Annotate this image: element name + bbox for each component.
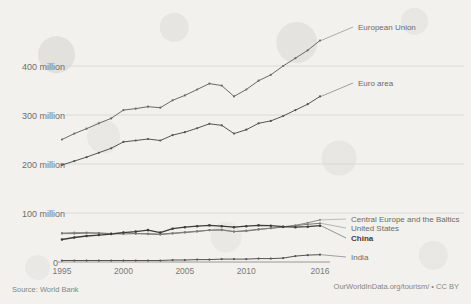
- series-leader-lines: [321, 27, 353, 257]
- series-marker: [220, 225, 223, 228]
- series-label: China: [351, 234, 374, 243]
- series-label: United States: [351, 224, 399, 233]
- gridlines: [62, 66, 464, 213]
- series-marker: [270, 120, 272, 122]
- series-marker: [307, 49, 309, 51]
- series-line: [62, 223, 320, 234]
- series-lines: [62, 41, 320, 261]
- series-marker: [110, 147, 112, 149]
- series-marker: [306, 225, 309, 228]
- series-marker: [159, 107, 161, 109]
- series-label: European Union: [358, 23, 416, 32]
- series-marker: [270, 257, 272, 259]
- series-marker: [110, 117, 112, 119]
- series-marker: [159, 259, 161, 261]
- series-marker: [319, 39, 321, 41]
- series-marker: [135, 259, 137, 261]
- series-marker: [147, 229, 150, 232]
- series-markers: [61, 39, 322, 261]
- series-marker: [85, 259, 87, 261]
- series-marker: [245, 129, 247, 131]
- x-tick-label: 2005: [175, 266, 194, 276]
- y-tick-label: 200 million: [22, 160, 65, 170]
- series-marker: [85, 235, 88, 238]
- series-marker: [196, 258, 198, 260]
- series-marker: [196, 231, 198, 233]
- series-marker: [122, 231, 125, 234]
- series-marker: [98, 122, 100, 124]
- x-tick-label: 2010: [237, 266, 256, 276]
- series-marker: [257, 257, 259, 259]
- series-marker: [257, 228, 259, 230]
- series-marker: [282, 65, 284, 67]
- chart-svg: 400 million300 million200 million100 mil…: [0, 0, 471, 304]
- series-line: [62, 255, 320, 261]
- series-marker: [73, 232, 75, 234]
- series-marker: [319, 95, 321, 97]
- series-marker: [122, 141, 124, 143]
- series-marker: [61, 238, 64, 241]
- series-marker: [171, 227, 174, 230]
- series-marker: [319, 254, 321, 256]
- series-marker: [221, 229, 223, 231]
- series-marker: [85, 128, 87, 130]
- y-tick-label: 100 million: [22, 209, 65, 219]
- series-marker: [61, 259, 63, 261]
- series-marker: [208, 224, 211, 227]
- series-marker: [208, 229, 210, 231]
- series-marker: [282, 257, 284, 259]
- x-tick-labels: 19952000200520102016: [53, 266, 330, 276]
- series-marker: [294, 226, 297, 229]
- series-marker: [294, 109, 296, 111]
- series-marker: [171, 134, 173, 136]
- series-marker: [221, 85, 223, 87]
- series-marker: [98, 152, 100, 154]
- series-marker: [159, 231, 162, 234]
- series-marker: [208, 123, 210, 125]
- series-marker: [233, 95, 235, 97]
- series-marker: [171, 232, 173, 234]
- series-marker: [134, 230, 137, 233]
- series-marker: [245, 225, 248, 228]
- y-tick-label: 400 million: [22, 62, 65, 72]
- series-marker: [245, 230, 247, 232]
- series-labels: European UnionEuro areaCentral Europe an…: [351, 23, 460, 262]
- series-marker: [270, 224, 273, 227]
- series-marker: [98, 259, 100, 261]
- series-line: [62, 41, 320, 140]
- series-marker: [294, 57, 296, 59]
- credit-note: OurWorldInData.org/tourism/ • CC BY: [334, 282, 459, 291]
- series-marker: [245, 258, 247, 260]
- series-marker: [319, 224, 322, 227]
- series-marker: [282, 225, 285, 228]
- series-marker: [208, 83, 210, 85]
- series-line: [62, 96, 320, 165]
- series-marker: [184, 94, 186, 96]
- series-marker: [147, 259, 149, 261]
- series-label: Central Europe and the Baltics: [351, 215, 460, 224]
- series-label: India: [351, 253, 369, 262]
- series-marker: [184, 226, 187, 229]
- series-marker: [233, 226, 236, 229]
- series-marker: [61, 138, 63, 140]
- series-marker: [110, 233, 113, 236]
- series-marker: [135, 108, 137, 110]
- series-marker: [61, 232, 63, 234]
- series-marker: [319, 222, 321, 224]
- series-marker: [196, 225, 199, 228]
- series-marker: [294, 255, 296, 257]
- series-marker: [98, 234, 101, 237]
- series-marker: [221, 124, 223, 126]
- x-tick-label: 2016: [311, 266, 330, 276]
- series-marker: [184, 259, 186, 261]
- series-marker: [270, 74, 272, 76]
- series-marker: [147, 138, 149, 140]
- series-marker: [135, 139, 137, 141]
- series-marker: [307, 103, 309, 105]
- series-marker: [85, 156, 87, 158]
- series-marker: [282, 115, 284, 117]
- series-marker: [208, 258, 210, 260]
- series-marker: [233, 133, 235, 135]
- series-marker: [319, 219, 321, 221]
- series-marker: [122, 259, 124, 261]
